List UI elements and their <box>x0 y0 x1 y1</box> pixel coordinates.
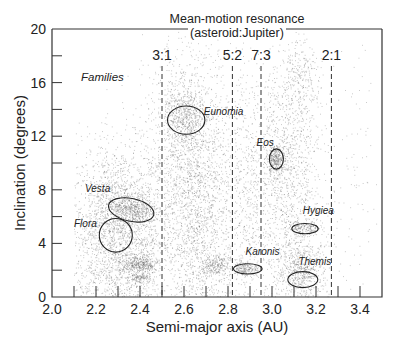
family-label-hygiea: Hygiea <box>303 205 335 216</box>
resonance-label-7-3: 7:3 <box>251 47 271 63</box>
families-heading: Families <box>81 71 124 83</box>
y-tick-label: 12 <box>30 128 46 144</box>
chart-title-line1: Mean-motion resonance <box>170 12 305 26</box>
family-label-karonis: Karonis <box>246 246 280 257</box>
family-ellipse-eunomia <box>168 106 205 134</box>
y-tick-label: 16 <box>30 75 46 91</box>
x-tick-label: 2.8 <box>218 301 238 317</box>
x-tick-label: 3.2 <box>306 301 326 317</box>
family-label-themis: Themis <box>298 256 331 267</box>
resonance-label-2-1: 2:1 <box>322 47 342 63</box>
y-axis-title: Inclination (degrees) <box>11 95 28 231</box>
x-tick-label: 3.4 <box>350 301 370 317</box>
family-label-eos: Eos <box>257 137 274 148</box>
y-tick-label: 20 <box>30 21 46 37</box>
x-axis-title: Semi-major axis (AU) <box>146 318 289 335</box>
family-ellipse-hygiea <box>292 224 318 234</box>
asteroid-inclination-chart: 3:15:27:32:1 VestaFloraEunomiaEosKaronis… <box>0 0 395 344</box>
x-tick-label: 3.0 <box>262 301 282 317</box>
family-label-vesta: Vesta <box>85 183 111 194</box>
y-tick-label: 4 <box>38 235 46 251</box>
x-tick-label: 2.6 <box>174 301 194 317</box>
resonance-label-5-2: 5:2 <box>223 47 243 63</box>
y-tick-label: 0 <box>38 289 46 305</box>
plot-frame <box>52 29 382 297</box>
family-label-flora: Flora <box>74 218 97 229</box>
x-tick-label: 2.2 <box>86 301 106 317</box>
family-label-eunomia: Eunomia <box>204 106 244 117</box>
x-tick-label: 2.4 <box>130 301 150 317</box>
y-axis-ticks: 048121620 <box>30 21 62 305</box>
y-tick-label: 8 <box>38 182 46 198</box>
chart-title-line2: (asteroid:Jupiter) <box>190 26 284 40</box>
x-axis-ticks: 2.02.22.42.62.83.03.23.4 <box>42 286 370 317</box>
resonance-label-3-1: 3:1 <box>152 47 172 63</box>
